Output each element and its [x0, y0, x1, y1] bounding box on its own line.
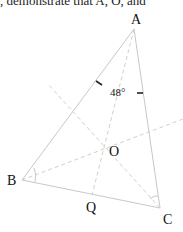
- label-q: Q: [86, 200, 96, 215]
- angle-mark-b: [34, 168, 36, 182]
- dashed-a-to-q: [92, 29, 134, 195]
- label-b: B: [7, 173, 16, 188]
- label-angle: 48°: [110, 86, 125, 98]
- triangle-diagram: 48° A O B Q C: [0, 0, 183, 232]
- angle-mark-c: [150, 196, 158, 199]
- label-c: C: [163, 212, 172, 227]
- label-a: A: [131, 12, 142, 27]
- label-o: O: [109, 144, 119, 159]
- dashed-b-bisector: [22, 119, 183, 180]
- angle-arrow-left-icon: [96, 81, 102, 85]
- side-ac: [134, 29, 160, 208]
